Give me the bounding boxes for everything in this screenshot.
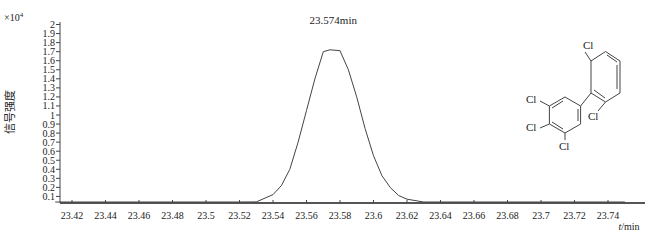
molecule-structure <box>540 52 620 141</box>
x-tick-label: 23.74 <box>597 210 620 221</box>
x-axis: 23.4223.4423.4623.4823.523.5223.5423.562… <box>60 200 645 221</box>
svg-text:Cl: Cl <box>588 110 598 122</box>
x-tick-label: 23.66 <box>463 210 486 221</box>
y-axis: 0.10.20.30.40.50.60.70.80.911.11.21.31.4… <box>43 19 61 203</box>
y-tick-label: 2 <box>50 19 55 30</box>
x-tick-label: 23.54 <box>262 210 285 221</box>
x-tick-label: 23.64 <box>429 210 452 221</box>
svg-text:Cl: Cl <box>559 140 569 152</box>
x-tick-label: 23.56 <box>295 210 318 221</box>
y-axis-label: 信号强度 <box>3 90 17 134</box>
x-tick-label: 23.62 <box>396 210 419 221</box>
x-tick-label: 23.6 <box>365 210 383 221</box>
x-tick-label: 23.42 <box>61 210 84 221</box>
chromatogram-line <box>55 50 625 202</box>
x-tick-label: 23.72 <box>563 210 586 221</box>
svg-text:Cl: Cl <box>526 121 536 133</box>
y-multiplier: ×104 <box>4 11 24 23</box>
x-tick-label: 23.68 <box>496 210 519 221</box>
peak-label: 23.574min <box>310 14 358 26</box>
x-tick-label: 23.7 <box>532 210 550 221</box>
x-tick-label: 23.48 <box>161 210 184 221</box>
svg-text:Cl: Cl <box>583 39 593 51</box>
x-tick-label: 23.5 <box>197 210 215 221</box>
x-tick-label: 23.52 <box>228 210 251 221</box>
svg-text:Cl: Cl <box>526 93 536 105</box>
x-tick-label: 23.46 <box>128 210 151 221</box>
x-tick-label: 23.58 <box>329 210 352 221</box>
x-tick-label: 23.44 <box>94 210 117 221</box>
x-axis-label: t/min <box>618 221 639 232</box>
chromatogram-chart: 0.10.20.30.40.50.60.70.80.911.11.21.31.4… <box>0 0 649 238</box>
